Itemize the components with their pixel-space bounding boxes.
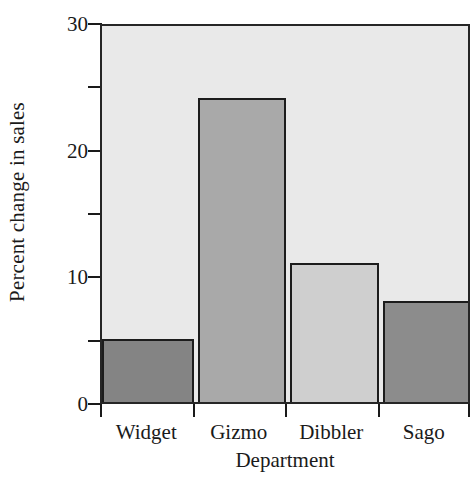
y-tick-label: 10 <box>44 267 88 288</box>
bar-series <box>102 26 468 402</box>
x-axis-label: Department <box>100 446 470 474</box>
x-axis-tick-labels: WidgetGizmoDibblerSago <box>100 418 470 448</box>
x-tick-mark <box>285 404 287 417</box>
x-tick-mark <box>378 404 380 417</box>
x-tick-label: Sago <box>403 418 445 446</box>
plot-area <box>100 24 470 404</box>
y-tick-label: 20 <box>44 140 88 161</box>
bar-dibbler <box>290 263 379 404</box>
y-axis-tick-labels: 0102030 <box>34 0 88 478</box>
x-tick-mark <box>100 404 102 417</box>
bar-chart-figure: Percent change in sales 0102030 WidgetGi… <box>0 0 476 478</box>
bar-gizmo <box>198 98 287 404</box>
y-tick-label: 30 <box>44 14 88 35</box>
x-tick-label: Dibbler <box>299 418 363 446</box>
x-tick-mark <box>193 404 195 417</box>
bar-widget <box>102 339 194 404</box>
y-tick-label: 0 <box>44 394 88 415</box>
x-tick-label: Gizmo <box>210 418 267 446</box>
bar-sago <box>383 301 471 404</box>
x-axis-tick-marks <box>100 404 470 418</box>
y-axis-label: Percent change in sales <box>0 0 34 404</box>
x-tick-label: Widget <box>116 418 177 446</box>
x-tick-mark <box>468 404 470 417</box>
